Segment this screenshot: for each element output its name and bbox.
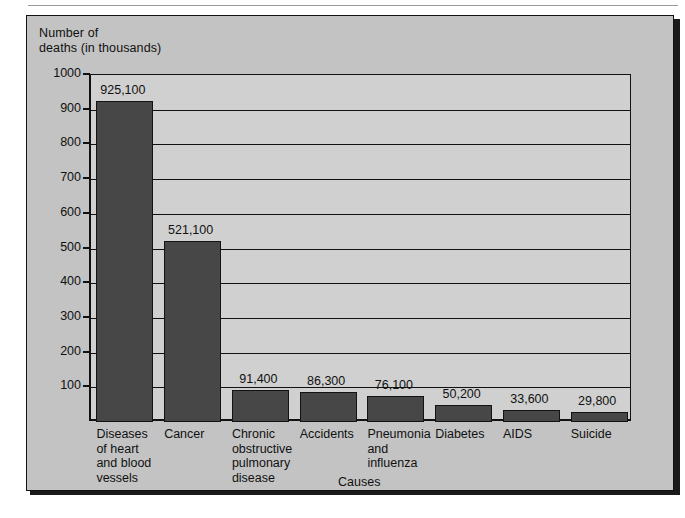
bar[interactable]: [164, 241, 221, 422]
y-axis-tick-mark: [83, 142, 90, 144]
y-axis-tick-label: 100: [41, 378, 81, 392]
y-axis-tick-mark: [83, 385, 90, 387]
bar[interactable]: [300, 392, 357, 422]
y-axis-tick-label: 300: [41, 309, 81, 323]
gridline: [91, 110, 630, 111]
x-axis-category-label: Accidents: [300, 427, 374, 442]
x-axis-category-label: Diabetes: [435, 427, 509, 442]
bar[interactable]: [232, 390, 289, 422]
y-axis-tick-label: 800: [41, 135, 81, 149]
y-axis-tick-mark: [83, 177, 90, 179]
bar-value-label: 521,100: [151, 223, 231, 237]
bar[interactable]: [571, 412, 628, 422]
y-axis-tick-label: 400: [41, 274, 81, 288]
bar[interactable]: [435, 405, 492, 422]
y-axis-title: Number of deaths (in thousands): [39, 26, 161, 56]
bar[interactable]: [96, 101, 153, 422]
y-axis-tick-mark: [83, 351, 90, 353]
x-axis-category-label: AIDS: [503, 427, 577, 442]
y-axis-tick-mark: [83, 73, 90, 75]
y-axis-tick-label: 500: [41, 240, 81, 254]
y-axis-tick-label: 600: [41, 205, 81, 219]
x-axis-category-label: Chronic obstructive pulmonary disease: [232, 427, 306, 485]
y-axis-tick-label: 200: [41, 344, 81, 358]
page-top-rule: [28, 5, 678, 6]
gridline: [91, 144, 630, 145]
bar[interactable]: [367, 396, 424, 422]
gridline: [91, 214, 630, 215]
gridline: [91, 179, 630, 180]
plot-area: [89, 74, 631, 421]
y-axis-tick-mark: [83, 108, 90, 110]
y-axis-tick-label: 900: [41, 101, 81, 115]
x-axis-category-label: Diseases of heart and blood vessels: [96, 427, 170, 485]
bar-chart-figure: Number of deaths (in thousands) 10020030…: [26, 15, 674, 491]
bar-value-label: 925,100: [83, 83, 163, 97]
y-axis-tick-mark: [83, 212, 90, 214]
bar-value-label: 29,800: [557, 394, 637, 408]
x-axis-category-label: Suicide: [571, 427, 645, 442]
y-axis-tick-mark: [83, 281, 90, 283]
x-axis-category-label: Pneumonia and influenza: [367, 427, 441, 471]
y-axis-tick-label: 700: [41, 170, 81, 184]
y-axis-tick-mark: [83, 316, 90, 318]
y-axis-tick-label: 1000: [41, 66, 81, 80]
bar[interactable]: [503, 410, 560, 422]
x-axis-title: Causes: [338, 475, 380, 489]
y-axis-tick-mark: [83, 247, 90, 249]
x-axis-category-label: Cancer: [164, 427, 238, 442]
